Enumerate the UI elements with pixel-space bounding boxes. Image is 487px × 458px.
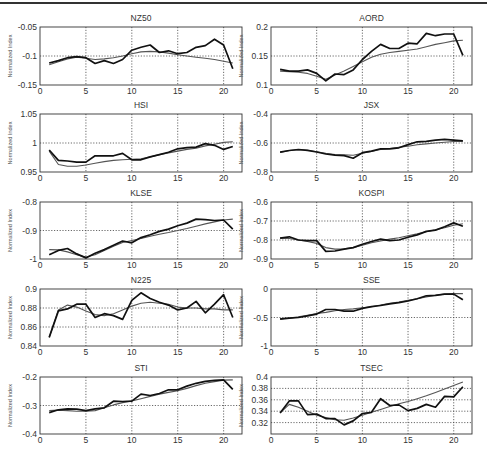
- x-tick-label: 5: [84, 86, 89, 96]
- subplot-title: AORD: [359, 13, 384, 23]
- x-tick-label: 5: [314, 173, 319, 183]
- y-tick-label: 1: [32, 138, 37, 148]
- x-tick-label: 15: [403, 347, 413, 357]
- x-tick-label: 0: [269, 173, 274, 183]
- subplot-title: JSX: [364, 100, 380, 110]
- x-tick-label: 0: [38, 347, 43, 357]
- y-tick-label: 0.15: [251, 51, 268, 61]
- x-tick-label: 20: [449, 260, 459, 270]
- y-tick-label: -1: [260, 341, 268, 351]
- y-tick-label: 0.95: [20, 167, 37, 177]
- y-tick-label: 0.32: [251, 418, 268, 428]
- y-tick-label: -0.4: [253, 109, 268, 119]
- y-tick-label: 1.05: [20, 109, 37, 119]
- y-axis-label: Normalized Index: [7, 34, 13, 77]
- x-tick-label: 10: [358, 173, 368, 183]
- y-tick-label: -0.15: [18, 80, 38, 90]
- y-tick-label: 0.36: [251, 395, 268, 405]
- x-tick-label: 20: [219, 260, 229, 270]
- y-tick-label: -0.8: [253, 167, 268, 177]
- x-tick-label: 5: [84, 347, 89, 357]
- y-tick-label: 0.9: [25, 284, 37, 294]
- y-tick-label: -0.1: [22, 51, 37, 61]
- x-tick-label: 0: [269, 347, 274, 357]
- y-axis-label: Normalized Index: [238, 209, 244, 252]
- x-tick-label: 10: [358, 347, 368, 357]
- x-tick-label: 10: [127, 260, 137, 270]
- x-tick-label: 0: [38, 260, 43, 270]
- subplot-sse: 05101520-1-0.50SSENormalized Index: [238, 275, 472, 357]
- x-tick-label: 5: [314, 260, 319, 270]
- x-tick-label: 0: [38, 86, 43, 96]
- y-tick-label: -0.8: [22, 197, 37, 207]
- y-axis-label: Normalized Index: [238, 384, 244, 427]
- subplot-title: SSE: [363, 275, 380, 285]
- subplot-aord: 051015200.10.150.2AORDNormalized Index: [238, 13, 472, 96]
- x-tick-label: 15: [403, 260, 413, 270]
- y-tick-label: -0.9: [253, 254, 268, 264]
- x-tick-label: 0: [269, 86, 274, 96]
- y-tick-label: 0.1: [256, 80, 268, 90]
- x-tick-label: 10: [358, 435, 368, 445]
- x-tick-label: 20: [219, 435, 229, 445]
- figure-canvas: 05101520-0.15-0.1-0.05NZ50Normalized Ind…: [0, 0, 487, 458]
- y-tick-label: -0.6: [253, 197, 268, 207]
- x-tick-label: 20: [449, 435, 459, 445]
- x-tick-label: 20: [219, 347, 229, 357]
- y-axis-label: Normalized Index: [238, 121, 244, 164]
- subplot-jsx: 05101520-0.8-0.6-0.4JSXNormalized Index: [238, 100, 472, 183]
- subplot-title: STI: [134, 363, 147, 373]
- x-tick-label: 15: [173, 260, 183, 270]
- y-tick-label: -0.9: [22, 226, 37, 236]
- y-axis-label: Normalized Index: [238, 296, 244, 339]
- y-axis-label: Normalized Index: [7, 209, 13, 252]
- y-axis-label: Normalized Index: [7, 296, 13, 339]
- x-tick-label: 15: [173, 435, 183, 445]
- subplot-klse: 05101520-1-0.9-0.8KLSENormalized Index: [7, 188, 242, 270]
- y-tick-label: 0: [263, 284, 268, 294]
- x-tick-label: 20: [449, 347, 459, 357]
- y-tick-label: -0.5: [253, 313, 268, 323]
- y-tick-label: -0.2: [22, 372, 37, 382]
- y-tick-label: 0.88: [20, 303, 37, 313]
- x-tick-label: 20: [219, 173, 229, 183]
- x-tick-label: 0: [269, 260, 274, 270]
- x-tick-label: 15: [403, 173, 413, 183]
- subplot-nz50: 05101520-0.15-0.1-0.05NZ50Normalized Ind…: [7, 13, 242, 96]
- y-tick-label: -0.05: [18, 22, 38, 32]
- x-tick-label: 5: [314, 435, 319, 445]
- subplot-title: N225: [131, 275, 152, 285]
- x-tick-label: 5: [314, 86, 319, 96]
- subplot-sti: 05101520-0.4-0.3-0.2STINormalized Index: [7, 363, 242, 445]
- x-tick-label: 10: [358, 260, 368, 270]
- x-tick-label: 15: [173, 86, 183, 96]
- x-tick-label: 5: [314, 347, 319, 357]
- x-tick-label: 5: [84, 435, 89, 445]
- x-tick-label: 5: [84, 173, 89, 183]
- y-tick-label: 0.84: [20, 341, 37, 351]
- x-tick-label: 10: [358, 86, 368, 96]
- x-tick-label: 0: [38, 173, 43, 183]
- y-tick-label: 0.4: [256, 372, 268, 382]
- x-tick-label: 15: [403, 435, 413, 445]
- x-tick-label: 15: [173, 347, 183, 357]
- subplot-title: KOSPI: [359, 188, 385, 198]
- y-tick-label: 0.34: [251, 406, 268, 416]
- x-tick-label: 15: [173, 173, 183, 183]
- y-tick-label: 0.2: [256, 22, 268, 32]
- y-tick-label: 0.86: [20, 322, 37, 332]
- x-tick-label: 0: [38, 435, 43, 445]
- y-tick-label: -0.6: [253, 138, 268, 148]
- subplot-title: TSEC: [360, 363, 383, 373]
- x-tick-label: 5: [84, 260, 89, 270]
- x-tick-label: 10: [127, 86, 137, 96]
- x-tick-label: 20: [219, 86, 229, 96]
- x-tick-label: 10: [127, 347, 137, 357]
- x-tick-label: 15: [403, 86, 413, 96]
- y-tick-label: 0.38: [251, 383, 268, 393]
- x-tick-label: 10: [127, 173, 137, 183]
- subplot-title: HSI: [134, 100, 148, 110]
- subplot-title: KLSE: [130, 188, 152, 198]
- y-axis-label: Normalized Index: [7, 384, 13, 427]
- y-axis-label: Normalized Index: [238, 34, 244, 77]
